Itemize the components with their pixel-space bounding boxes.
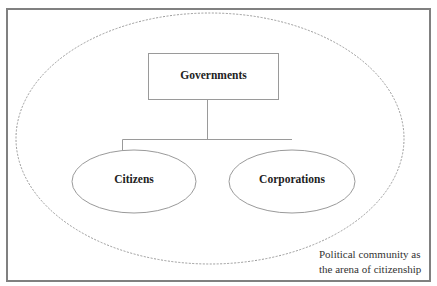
corporations-label: Corporations <box>229 173 355 185</box>
boundary-note-line-1: Political community as <box>319 247 421 262</box>
governments-label: Governments <box>148 69 279 81</box>
boundary-note-line-2: the arena of citizenship <box>319 262 421 277</box>
diagram-canvas <box>0 0 437 286</box>
political-community-boundary <box>16 13 404 264</box>
citizens-label: Citizens <box>72 173 196 185</box>
boundary-note: Political community as the arena of citi… <box>319 247 421 277</box>
